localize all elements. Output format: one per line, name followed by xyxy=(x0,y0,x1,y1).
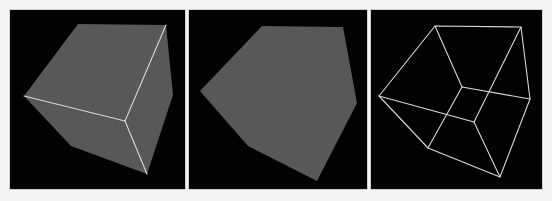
panel-silhouette xyxy=(188,9,368,190)
cube-silhouette xyxy=(24,24,173,174)
shaded-cube-graphic xyxy=(10,10,187,191)
cube-silhouette xyxy=(200,26,357,181)
panel-wireframe xyxy=(370,9,543,190)
cube-rendering-strip xyxy=(0,0,552,201)
panel-shaded-cube xyxy=(9,9,186,190)
wireframe-graphic xyxy=(371,10,544,191)
silhouette-graphic xyxy=(189,10,369,191)
